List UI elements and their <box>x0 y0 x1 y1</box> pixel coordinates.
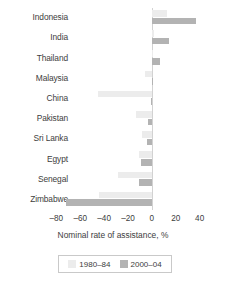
bar <box>136 111 152 118</box>
bar-chart: IndonesiaIndiaThailandMalaysiaChinaPakis… <box>0 0 226 281</box>
bar <box>152 18 196 25</box>
bar <box>99 192 152 199</box>
bar <box>152 78 153 85</box>
bar <box>98 91 152 98</box>
bar <box>152 58 160 65</box>
legend-swatch <box>120 260 128 268</box>
legend-entry[interactable]: 1980–84 <box>68 260 110 269</box>
x-axis-title: Nominal rate of assistance, % <box>0 230 226 240</box>
bar <box>118 172 151 179</box>
bar <box>151 98 152 105</box>
legend-label: 1980–84 <box>79 260 110 269</box>
x-tick-label: 40 <box>195 214 204 224</box>
bar <box>152 38 169 45</box>
x-tick-label: 0 <box>150 214 155 224</box>
bar <box>152 10 168 17</box>
bar <box>142 131 152 138</box>
bar-group <box>48 109 208 129</box>
bar <box>145 71 152 78</box>
legend-label: 2000–04 <box>131 260 162 269</box>
bar-group <box>48 190 208 210</box>
chart-legend: 1980–842000–04 <box>58 255 172 273</box>
bar <box>139 179 152 186</box>
bar-group <box>48 129 208 149</box>
x-tick-label: –20 <box>121 214 135 224</box>
x-tick-label: –60 <box>73 214 87 224</box>
bar-group <box>48 89 208 109</box>
bar <box>141 159 152 166</box>
bar-group <box>48 48 208 68</box>
bar-group <box>48 149 208 169</box>
legend-swatch <box>68 260 76 268</box>
bar-group <box>48 170 208 190</box>
bar-group <box>48 8 208 28</box>
bar <box>139 151 152 158</box>
x-tick-label: 20 <box>171 214 180 224</box>
bar <box>152 30 154 37</box>
bar <box>147 139 152 146</box>
bar-group <box>48 28 208 48</box>
bar <box>152 50 153 57</box>
bar <box>148 119 152 126</box>
bar-group <box>48 69 208 89</box>
x-tick-label: –80 <box>50 214 64 224</box>
legend-entry[interactable]: 2000–04 <box>120 260 162 269</box>
plot-area <box>48 8 208 210</box>
x-tick-label: –40 <box>97 214 111 224</box>
bar <box>66 199 152 206</box>
value-axis: –80–60–40–2002040 <box>48 210 208 230</box>
